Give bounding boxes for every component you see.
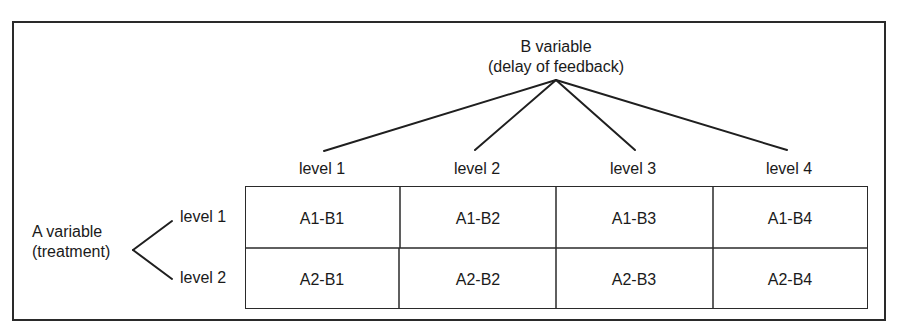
cell-a1-b3: A1-B3 — [612, 209, 656, 228]
b-level-4-label: level 4 — [766, 159, 812, 178]
cell-a1-b1: A1-B1 — [300, 209, 344, 228]
b-variable-title: B variable (delay of feedback) — [488, 37, 624, 77]
a-variable-name: A variable — [32, 222, 110, 242]
a-variable-title: A variable (treatment) — [32, 222, 110, 262]
a-level-2-label: level 2 — [180, 268, 226, 287]
b-variable-name: B variable — [488, 37, 624, 57]
cell-a2-b4: A2-B4 — [768, 270, 812, 289]
cell-a2-b3: A2-B3 — [612, 270, 656, 289]
cell-a2-b2: A2-B2 — [456, 270, 500, 289]
cell-a1-b2: A1-B2 — [456, 209, 500, 228]
a-level-1-label: level 1 — [180, 207, 226, 226]
cell-a1-b4: A1-B4 — [768, 209, 812, 228]
b-level-1-label: level 1 — [299, 159, 345, 178]
design-matrix — [245, 186, 868, 309]
cell-a2-b1: A2-B1 — [300, 270, 344, 289]
b-level-2-label: level 2 — [454, 159, 500, 178]
a-variable-description: (treatment) — [32, 242, 110, 262]
b-level-3-label: level 3 — [610, 159, 656, 178]
b-variable-description: (delay of feedback) — [488, 57, 624, 77]
